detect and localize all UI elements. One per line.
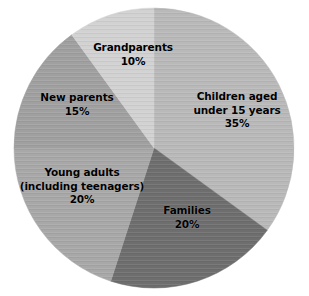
- pie-label-value: 20%: [137, 218, 237, 232]
- pie-label-line: Grandparents: [74, 41, 192, 55]
- pie-label-line: under 15 years: [181, 104, 293, 118]
- pie-label-line: Children aged: [181, 90, 293, 104]
- pie-label-line: (including teenagers): [10, 180, 154, 194]
- pie-label-young-adults: Young adults (including teenagers) 20%: [10, 166, 154, 207]
- pie-label-value: 15%: [21, 105, 133, 119]
- pie-label-new-parents: New parents 15%: [21, 91, 133, 118]
- pie-chart: Children aged under 15 years 35% Familie…: [0, 0, 309, 296]
- pie-label-value: 10%: [74, 55, 192, 69]
- pie-label-line: New parents: [21, 91, 133, 105]
- pie-label-value: 35%: [181, 117, 293, 131]
- pie-label-line: Young adults: [10, 166, 154, 180]
- pie-label-value: 20%: [10, 193, 154, 207]
- pie-label-grandparents: Grandparents 10%: [74, 41, 192, 68]
- pie-label-children-aged-under-15-years: Children aged under 15 years 35%: [181, 90, 293, 131]
- pie-label-families: Families 20%: [137, 204, 237, 231]
